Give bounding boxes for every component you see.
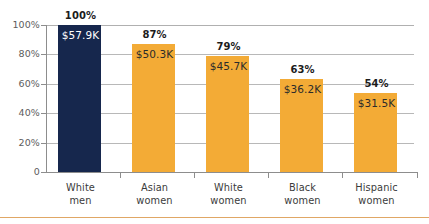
bar-white-men[interactable] bbox=[58, 25, 101, 172]
x-tick-1 bbox=[120, 173, 121, 178]
category-label-hispanic-women-line2: women bbox=[344, 194, 409, 207]
percent-label-hispanic-women: 54% bbox=[346, 79, 407, 89]
category-label-asian-women-line2: women bbox=[124, 194, 185, 207]
category-label-asian-women: Asian women bbox=[124, 181, 185, 207]
category-label-white-men: White men bbox=[50, 181, 111, 207]
category-label-black-women-line1: Black bbox=[289, 182, 316, 193]
percent-label-black-women: 63% bbox=[272, 65, 333, 75]
category-label-black-women-line2: women bbox=[272, 194, 333, 207]
y-tick-label-100: 100% bbox=[2, 20, 40, 30]
category-label-white-women-line1: White bbox=[214, 182, 243, 193]
category-label-black-women: Black women bbox=[272, 181, 333, 207]
category-label-hispanic-women-line1: Hispanic bbox=[355, 182, 398, 193]
bar-white-women[interactable] bbox=[206, 56, 249, 172]
y-tick-label-0: 0 bbox=[2, 167, 40, 177]
y-tick-label-60-wrap: 60% bbox=[0, 79, 40, 89]
y-tick-label-100-wrap: 100% bbox=[0, 20, 40, 30]
bar-asian-women[interactable] bbox=[132, 44, 175, 172]
value-label-hispanic-women: $31.5K bbox=[346, 98, 407, 109]
category-label-asian-women-line1: Asian bbox=[141, 182, 168, 193]
category-label-white-women-line2: women bbox=[198, 194, 259, 207]
category-label-hispanic-women: Hispanic women bbox=[344, 181, 409, 207]
x-tick-4 bbox=[342, 173, 343, 178]
y-tick-label-40-wrap: 40% bbox=[0, 108, 40, 118]
value-label-asian-women: $50.3K bbox=[124, 49, 185, 60]
value-label-white-men: $57.9K bbox=[50, 30, 111, 41]
y-tick-label-80: 80% bbox=[2, 49, 40, 59]
bottom-divider bbox=[0, 217, 429, 218]
value-label-black-women: $36.2K bbox=[272, 84, 333, 95]
y-tick-label-20-wrap: 20% bbox=[0, 138, 40, 148]
value-label-white-women: $45.7K bbox=[198, 61, 259, 72]
y-tick-label-20: 20% bbox=[2, 138, 40, 148]
x-axis-end-tick bbox=[417, 172, 418, 178]
category-label-white-women: White women bbox=[198, 181, 259, 207]
x-tick-3 bbox=[268, 173, 269, 178]
y-tick-label-60: 60% bbox=[2, 79, 40, 89]
category-label-white-men-line2: men bbox=[50, 194, 111, 207]
x-tick-2 bbox=[194, 173, 195, 178]
x-axis-line bbox=[46, 172, 418, 173]
category-label-white-men-line1: White bbox=[66, 182, 95, 193]
y-tick-label-0-wrap: 0 bbox=[0, 167, 40, 177]
y-tick-label-80-wrap: 80% bbox=[0, 49, 40, 59]
percent-label-white-men: 100% bbox=[50, 11, 111, 21]
percent-label-white-women: 79% bbox=[198, 42, 259, 52]
bar-chart: 100% 80% 60% 40% 20% 0 100% 87% 79% 63% … bbox=[0, 0, 429, 224]
percent-label-asian-women: 87% bbox=[124, 30, 185, 40]
y-tick-label-40: 40% bbox=[2, 108, 40, 118]
